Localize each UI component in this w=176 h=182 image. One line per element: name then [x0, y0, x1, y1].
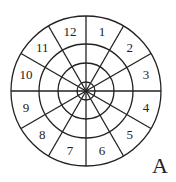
sector-label-2: 2 — [127, 40, 134, 55]
sector-label-6: 6 — [99, 143, 106, 158]
target-diagram: 123456789101112 A — [0, 0, 176, 182]
sector-label-12: 12 — [63, 24, 76, 39]
corner-label: A — [152, 153, 168, 178]
sector-label-5: 5 — [127, 127, 134, 142]
spoke — [86, 54, 151, 92]
spoke — [86, 91, 151, 129]
sector-label-9: 9 — [23, 100, 30, 115]
spoke — [21, 91, 86, 129]
sector-label-8: 8 — [39, 127, 46, 142]
sector-label-4: 4 — [143, 100, 150, 115]
sector-label-10: 10 — [20, 67, 33, 82]
sector-label-1: 1 — [99, 24, 106, 39]
sector-label-7: 7 — [67, 143, 74, 158]
sector-label-3: 3 — [143, 67, 150, 82]
sector-label-11: 11 — [36, 40, 49, 55]
